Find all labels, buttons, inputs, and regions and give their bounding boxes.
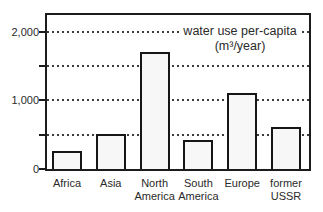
- bar-asia: [96, 134, 126, 169]
- y-tick-mark-1000: [39, 99, 47, 101]
- y-tick-label-1000: 1,000: [0, 94, 39, 106]
- x-tick-label-former-ussr: former USSR: [254, 177, 318, 202]
- bar-africa: [52, 151, 82, 169]
- y-tick-mark-0: [39, 168, 47, 170]
- chart-title: water use per-capita (m³/year): [179, 23, 301, 55]
- bar-former-ussr: [271, 127, 301, 169]
- y-tick-mark-1500: [39, 65, 47, 67]
- gridline-500: [47, 134, 309, 136]
- bar-south-america: [183, 140, 213, 169]
- gridline-1000: [47, 99, 309, 101]
- chart-title-line1: water use per-capita: [183, 24, 296, 38]
- chart-title-line2: (m³/year): [215, 39, 266, 53]
- chart-figure: water use per-capita (m³/year) 01,0002,0…: [0, 0, 323, 212]
- y-tick-mark-500: [39, 134, 47, 136]
- gridline-1500: [47, 65, 309, 67]
- plot-area: water use per-capita (m³/year): [45, 13, 311, 171]
- y-tick-label-2000: 2,000: [0, 26, 39, 38]
- y-tick-mark-2000: [39, 31, 47, 33]
- bar-europe: [227, 93, 257, 169]
- bar-north-america: [140, 52, 170, 169]
- y-tick-label-0: 0: [0, 163, 39, 175]
